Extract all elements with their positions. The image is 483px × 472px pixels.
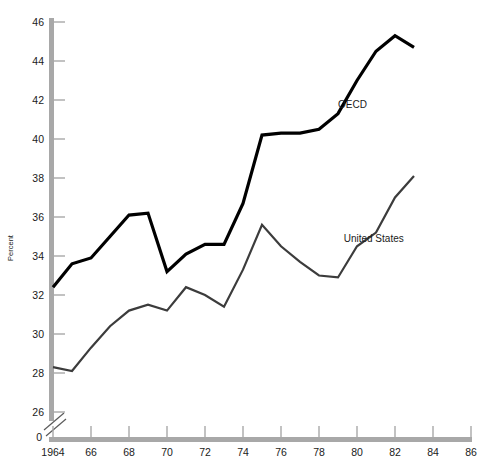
x-tick-label: 66 xyxy=(85,446,97,458)
y-tick-label: 40 xyxy=(32,133,44,145)
y-axis-zero-label: 0 xyxy=(36,431,42,443)
y-tick-label: 38 xyxy=(32,172,44,184)
x-tick-label: 72 xyxy=(199,446,211,458)
x-tick-label: 82 xyxy=(389,446,401,458)
y-tick-label: 36 xyxy=(32,211,44,223)
series-label-united-states: United States xyxy=(344,233,404,244)
y-tick-label: 28 xyxy=(32,367,44,379)
series-label-oecd: OECD xyxy=(338,99,367,110)
x-tick-label: 76 xyxy=(275,446,287,458)
line-chart-canvas: 2628303234363840424446 19646668707274767… xyxy=(0,0,483,472)
x-tick-label: 86 xyxy=(465,446,477,458)
x-tick-label: 70 xyxy=(161,446,173,458)
y-tick-label: 34 xyxy=(32,250,44,262)
y-tick-label: 44 xyxy=(32,55,44,67)
x-axis-line xyxy=(49,437,472,442)
chart-background xyxy=(0,0,483,472)
x-tick-label: 1964 xyxy=(41,446,65,458)
x-tick-label: 84 xyxy=(427,446,439,458)
chart-figure: 2628303234363840424446 19646668707274767… xyxy=(0,0,483,472)
y-tick-label: 46 xyxy=(32,16,44,28)
x-tick-label: 68 xyxy=(123,446,135,458)
x-tick-label: 80 xyxy=(351,446,363,458)
y-tick-label: 42 xyxy=(32,94,44,106)
x-tick-label: 78 xyxy=(313,446,325,458)
y-axis-line xyxy=(49,18,54,421)
y-tick-label: 26 xyxy=(32,406,44,418)
y-axis-title: Percent xyxy=(6,234,15,261)
x-tick-label: 74 xyxy=(237,446,249,458)
y-tick-label: 32 xyxy=(32,289,44,301)
y-tick-label: 30 xyxy=(32,328,44,340)
